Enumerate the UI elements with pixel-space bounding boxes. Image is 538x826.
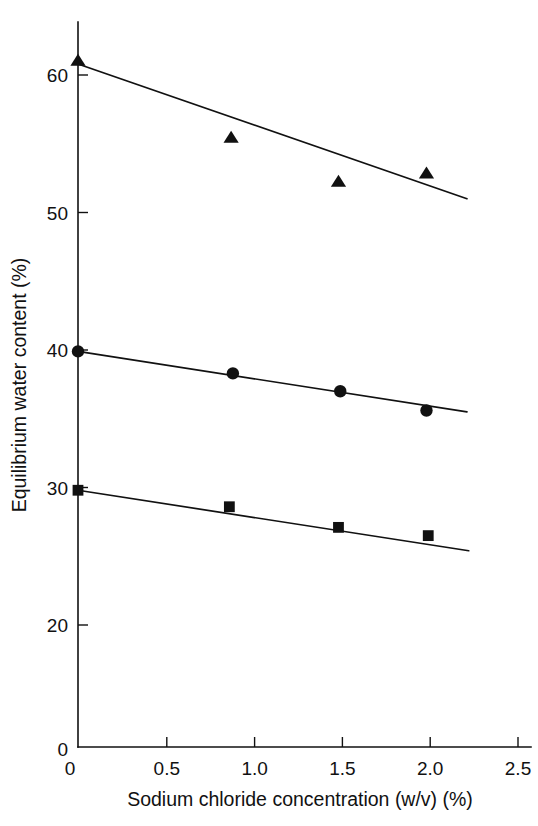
y-axis-title: Equilibrium water content (%) bbox=[8, 258, 30, 513]
chart-figure: 60 50 40 30 20 0 0 0.5 1.0 1.5 2.0 2.5 S… bbox=[0, 0, 538, 826]
data-point bbox=[73, 485, 84, 496]
x-tick-label-2-5: 2.5 bbox=[505, 758, 531, 779]
data-markers-triangle bbox=[70, 54, 434, 187]
y-tick-label-20: 20 bbox=[47, 615, 68, 636]
plot-canvas: 60 50 40 30 20 0 0 0.5 1.0 1.5 2.0 2.5 S… bbox=[0, 0, 538, 826]
y-tick-label-50: 50 bbox=[47, 203, 68, 224]
data-point bbox=[331, 175, 346, 187]
y-tick-label-40: 40 bbox=[47, 340, 68, 361]
data-point bbox=[420, 404, 432, 416]
data-point bbox=[70, 54, 85, 66]
data-point bbox=[423, 530, 434, 541]
x-tick-label-0: 0 bbox=[65, 758, 76, 779]
data-point bbox=[72, 345, 84, 357]
x-tick-label-1-0: 1.0 bbox=[241, 758, 267, 779]
data-point bbox=[224, 131, 239, 143]
y-tick-label-60: 60 bbox=[47, 65, 68, 86]
data-point bbox=[224, 501, 235, 512]
x-tick-label-0-5: 0.5 bbox=[154, 758, 180, 779]
x-tick-label-2-0: 2.0 bbox=[417, 758, 443, 779]
data-point bbox=[227, 367, 239, 379]
trend-line-circle bbox=[78, 351, 467, 412]
data-markers-square bbox=[73, 485, 434, 541]
data-point bbox=[419, 167, 434, 179]
x-tick-label-1-5: 1.5 bbox=[329, 758, 355, 779]
x-axis-ticks bbox=[167, 737, 518, 747]
series-lines bbox=[78, 64, 469, 551]
y-tick-label-0: 0 bbox=[57, 739, 68, 760]
y-tick-label-30: 30 bbox=[47, 478, 68, 499]
trend-line-square bbox=[78, 490, 469, 551]
data-point bbox=[334, 385, 346, 397]
data-point bbox=[333, 522, 344, 533]
x-axis-title: Sodium chloride concentration (w/v) (%) bbox=[127, 788, 473, 810]
data-markers-circle bbox=[72, 345, 433, 417]
trend-line-triangle bbox=[78, 64, 467, 199]
